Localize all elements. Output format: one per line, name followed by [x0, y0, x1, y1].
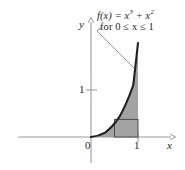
annotation-fn-exponent-2: 2 [150, 8, 154, 16]
annotation-domain-text: for 0 ≤ x ≤ 1 [100, 22, 154, 33]
annotation-fn-prefix: f(x) = x [97, 10, 129, 21]
annotation-leader-line [97, 28, 134, 69]
figure-container: f(x) = x3 + x2 for 0 ≤ x ≤ 1 y x 1 0 1 [0, 0, 185, 170]
plot-canvas [0, 0, 185, 170]
annotation-function-expression: f(x) = x3 + x2 [97, 9, 154, 21]
y-axis-tick-label-1: 1 [79, 84, 85, 95]
y-axis-label: y [79, 19, 84, 30]
x-axis-tick-label-0: 0 [85, 140, 91, 151]
x-axis-label: x [167, 140, 172, 151]
annotation-fn-mid: + x [133, 10, 150, 21]
x-axis-tick-label-1: 1 [134, 140, 140, 151]
